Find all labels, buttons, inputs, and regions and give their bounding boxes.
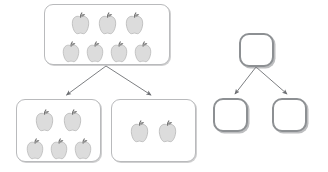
right-part-box[interactable] bbox=[111, 99, 196, 162]
left-part-apple-row-1 bbox=[17, 108, 100, 133]
apple-icon bbox=[86, 41, 104, 64]
left-part-apple-row-2 bbox=[17, 136, 100, 161]
apple-icon bbox=[110, 41, 128, 64]
apple-icon bbox=[26, 138, 44, 161]
apple-icon bbox=[62, 41, 80, 64]
apple-icon bbox=[98, 12, 117, 36]
apple-icon bbox=[74, 138, 92, 161]
apple-icon bbox=[63, 109, 82, 133]
diagram-canvas bbox=[0, 0, 328, 172]
arrow-whole-to-right-part bbox=[106, 66, 151, 95]
part-whole-diagram bbox=[0, 0, 328, 172]
whole-apple-row-2 bbox=[45, 39, 169, 64]
empty-whole-box[interactable] bbox=[239, 33, 274, 67]
empty-right-part-box[interactable] bbox=[272, 98, 307, 132]
whole-apple-row-1 bbox=[45, 11, 169, 36]
left-part-box[interactable] bbox=[16, 99, 101, 162]
arrow-empty-whole-to-left bbox=[235, 67, 256, 94]
apple-icon bbox=[35, 109, 54, 133]
whole-group-box[interactable] bbox=[44, 4, 170, 65]
empty-left-part-box[interactable] bbox=[213, 98, 248, 132]
apple-icon bbox=[158, 120, 177, 144]
arrow-whole-to-left-part bbox=[67, 66, 107, 95]
apple-icon bbox=[50, 138, 68, 161]
apple-icon bbox=[134, 41, 152, 64]
apple-icon bbox=[130, 120, 149, 144]
apple-icon bbox=[71, 12, 90, 36]
right-part-apple-row-1 bbox=[112, 119, 195, 144]
arrow-empty-whole-to-right bbox=[256, 67, 287, 94]
apple-icon bbox=[125, 12, 144, 36]
